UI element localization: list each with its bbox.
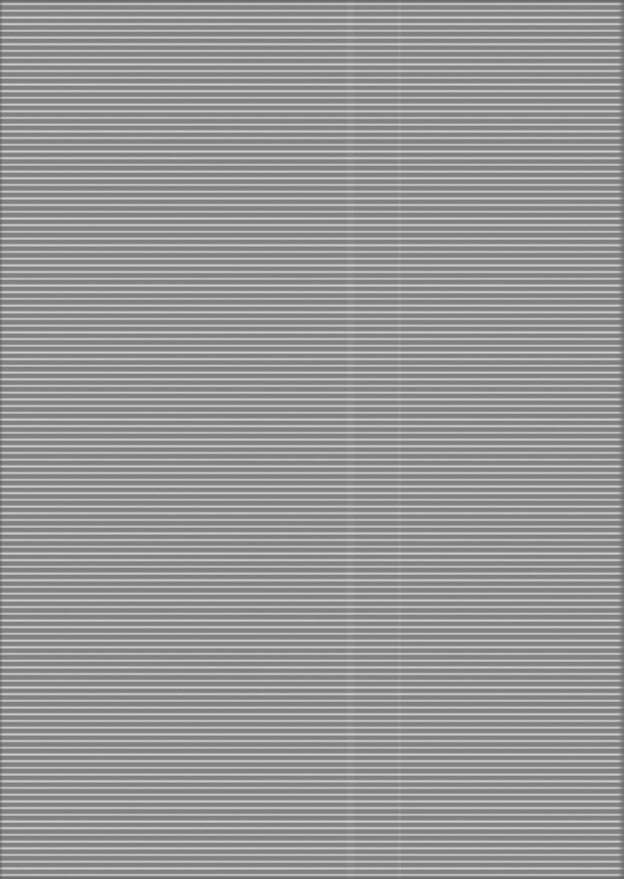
top-edge-shade xyxy=(0,0,624,3)
faint-vertical-seam xyxy=(398,0,401,879)
faint-vertical-light-band xyxy=(347,0,354,879)
bottom-edge-shade xyxy=(0,875,624,879)
right-edge-shade xyxy=(618,0,624,879)
left-edge-shade xyxy=(0,0,3,879)
striped-texture-background xyxy=(0,0,624,879)
scan-noise-texture xyxy=(0,0,624,879)
